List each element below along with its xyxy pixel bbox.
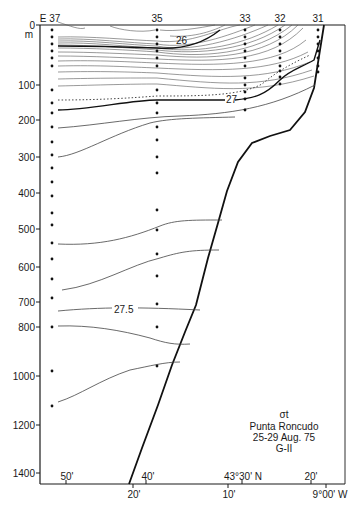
sample-point [244,50,247,53]
sample-point [244,109,247,112]
sample-point [244,91,247,94]
svg-text:600: 600 [18,262,35,273]
svg-text:25-29 Aug. 75: 25-29 Aug. 75 [253,432,316,443]
sample-point [317,57,320,60]
sample-point [156,172,159,175]
svg-text:E 37: E 37 [40,13,61,24]
sample-point [156,43,159,46]
sample-point [156,65,159,68]
sample-point [317,65,320,68]
sample-point [51,224,54,227]
station-labels: E 37 35 33 32 31 [40,13,324,24]
isopycnal-27-bold [58,100,225,110]
y-axis-labels: 0 m 100 200 300 400 500 600 700 800 1000… [13,20,36,479]
sample-point [51,258,54,261]
svg-text:40': 40' [141,471,154,482]
svg-text:700: 700 [18,297,35,308]
svg-text:26: 26 [176,35,188,46]
svg-text:31: 31 [312,13,324,24]
sample-point [244,65,247,68]
sample-point [317,71,320,74]
sample-point [156,303,159,306]
sample-point [156,275,159,278]
sample-point [279,83,282,86]
isopycnal-27-east [235,40,320,100]
sample-point [156,365,159,368]
sample-point [156,102,159,105]
svg-text:m: m [25,29,33,40]
sample-point [156,326,159,329]
sample-point [51,242,54,245]
sample-point [51,278,54,281]
sample-point [244,36,247,39]
sample-point [279,43,282,46]
sample-point [317,29,320,32]
sample-point [51,50,54,53]
sample-point [51,57,54,60]
sample-point [244,29,247,32]
sample-point [51,112,54,115]
sample-point [279,29,282,32]
sample-point [244,98,247,101]
sample-point [244,84,247,87]
sample-point [244,77,247,80]
svg-text:10': 10' [222,489,235,500]
svg-text:Punta Roncudo: Punta Roncudo [250,421,319,432]
sample-point [51,181,54,184]
sample-point [317,36,320,39]
svg-text:43°30' N: 43°30' N [224,471,262,482]
sample-point [51,89,54,92]
svg-text:33: 33 [239,13,251,24]
sample-point [317,43,320,46]
sample-point [156,126,159,129]
plot-frame [40,25,345,484]
svg-text:500: 500 [18,224,35,235]
sample-point [51,65,54,68]
svg-text:G-II: G-II [276,443,293,454]
svg-text:27.5: 27.5 [114,304,134,315]
sample-point [51,102,54,105]
sample-point [156,50,159,53]
sample-point [279,76,282,79]
sample-point [279,50,282,53]
svg-text:32: 32 [274,13,286,24]
svg-text:300: 300 [18,152,35,163]
sample-point [279,36,282,39]
sample-point [51,405,54,408]
sample-point [51,167,54,170]
svg-text:50': 50' [60,471,73,482]
sample-point [279,65,282,68]
x-axis-inner-labels: 50' 40' 43°30' N 20' [60,471,317,482]
sample-point [244,43,247,46]
svg-text:20': 20' [304,471,317,482]
svg-text:1000: 1000 [13,371,36,382]
svg-text:200: 200 [18,115,35,126]
sample-point [51,141,54,144]
svg-text:800: 800 [18,322,35,333]
sample-point [51,195,54,198]
svg-text:1200: 1200 [13,420,36,431]
sample-point [156,229,159,232]
svg-text:27: 27 [226,94,238,105]
sample-point [244,57,247,60]
sample-point [156,36,159,39]
sample-point [156,253,159,256]
sample-point [156,89,159,92]
sample-point [51,154,54,157]
sample-point [279,57,282,60]
sample-point [51,43,54,46]
sample-point [317,50,320,53]
x-axis-outer-labels: 20' 10' 9°00' W [127,489,347,500]
svg-text:20': 20' [127,489,140,500]
sample-point [51,297,54,300]
sample-point [51,36,54,39]
sample-point [51,29,54,32]
sample-point [51,212,54,215]
sample-point [156,139,159,142]
svg-text:σt: σt [280,409,289,420]
sample-point [156,112,159,115]
thermocline-isopycnals [58,22,314,89]
sample-point [156,57,159,60]
svg-text:1400: 1400 [13,468,36,479]
svg-text:9°00' W: 9°00' W [313,489,348,500]
